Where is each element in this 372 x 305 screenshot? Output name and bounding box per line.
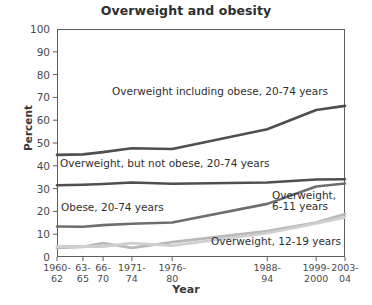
y-tick-label: 40 (16, 161, 50, 171)
y-tick-label: 100 (16, 24, 50, 34)
plot-area (57, 29, 345, 257)
x-axis-ticks (57, 257, 345, 261)
y-tick-label: 50 (16, 138, 50, 148)
y-tick-label: 20 (16, 206, 50, 216)
y-tick-label: 10 (16, 229, 50, 239)
y-axis-title: Percent (22, 98, 34, 158)
series-label: Overweight including obese, 20-74 years (112, 86, 328, 97)
series-label: Obese, 20-74 years (61, 202, 164, 213)
chart-figure: Overweight and obesity Percent 100908070… (0, 0, 372, 305)
y-tick-label: 30 (16, 184, 50, 194)
y-tick-label: 0 (16, 252, 50, 262)
x-tick-label: 2003- 04 (315, 263, 372, 284)
x-tick-label: 1976- 80 (142, 263, 202, 284)
series-label: Overweight, 12-19 years (211, 236, 341, 247)
y-tick-label: 90 (16, 47, 50, 57)
series-label: Overweight, but not obese, 20-74 years (60, 158, 270, 169)
y-tick-label: 70 (16, 92, 50, 102)
y-tick-label: 80 (16, 70, 50, 80)
x-axis-title: Year (0, 283, 372, 296)
chart-title: Overweight and obesity (0, 3, 372, 18)
y-tick-label: 60 (16, 115, 50, 125)
series-label: Overweight, 6-11 years (272, 190, 336, 212)
